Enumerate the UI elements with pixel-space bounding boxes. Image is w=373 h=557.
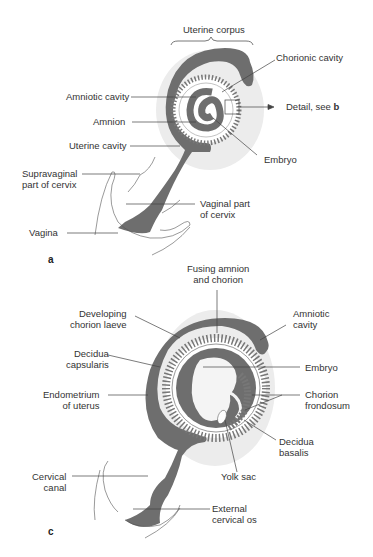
label-decidua-capsularis: Deciduacapsularis — [66, 348, 109, 370]
panel-letter-a: a — [48, 254, 54, 265]
label-detail-see-b: Detail, see b — [286, 101, 339, 112]
label-line: Decidua — [279, 436, 314, 447]
label-external-cervical-os: Externalcervical os — [212, 503, 257, 525]
detail-text: Detail, see — [286, 101, 334, 112]
detail-ref: b — [334, 101, 340, 112]
label-line: canal — [32, 482, 66, 493]
label-developing-chorion-laeve: Developingchorion laeve — [70, 308, 127, 330]
label-line: frondosum — [305, 400, 350, 411]
panel-letter-c: c — [48, 526, 54, 537]
label-decidua-basalis: Deciduabasalis — [279, 436, 314, 458]
label-amniotic-cavity: Amniotic cavity — [66, 91, 129, 102]
label-line: chorion laeve — [70, 319, 127, 330]
label-vaginal-part: Vaginal partof cervix — [200, 198, 250, 220]
label-embryo-a: Embryo — [264, 154, 297, 165]
label-uterine-corpus: Uterine corpus — [183, 24, 245, 35]
label-line: External — [212, 503, 257, 514]
label-supravaginal: Supravaginalpart of cervix — [22, 168, 77, 190]
label-line: Cervical — [32, 471, 66, 482]
label-chorionic-cavity: Chorionic cavity — [276, 52, 343, 63]
label-line: of cervix — [200, 209, 250, 220]
label-line: Vaginal part — [200, 198, 250, 209]
label-cervical-canal: Cervicalcanal — [32, 471, 66, 493]
label-amniotic-cavity-c: Amnioticcavity — [293, 308, 329, 330]
label-amnion: Amnion — [93, 116, 125, 127]
label-vagina: Vagina — [29, 227, 58, 238]
label-chorion-frondosum: Chorionfrondosum — [305, 389, 350, 411]
label-line: Fusing amnion — [187, 263, 249, 274]
label-fusing-amnion-chorion: Fusing amnionand chorion — [187, 263, 249, 285]
label-line: Amniotic — [293, 308, 329, 319]
label-line: capsularis — [66, 359, 109, 370]
label-line: Developing — [70, 308, 127, 319]
label-embryo-c: Embryo — [305, 362, 338, 373]
brace-icon — [171, 37, 253, 45]
label-line: Chorion — [305, 389, 350, 400]
label-endometrium: Endometriumof uterus — [43, 389, 100, 411]
label-uterine-cavity: Uterine cavity — [69, 140, 127, 151]
label-line: cavity — [293, 319, 329, 330]
label-line: basalis — [279, 447, 314, 458]
label-yolk-sac: Yolk sac — [221, 471, 256, 482]
label-line: of uterus — [43, 400, 100, 411]
label-line: Decidua — [66, 348, 109, 359]
label-line: cervical os — [212, 514, 257, 525]
label-line: part of cervix — [22, 179, 77, 190]
label-line: and chorion — [187, 274, 249, 285]
label-line: Endometrium — [43, 389, 100, 400]
label-line: Supravaginal — [22, 168, 77, 179]
